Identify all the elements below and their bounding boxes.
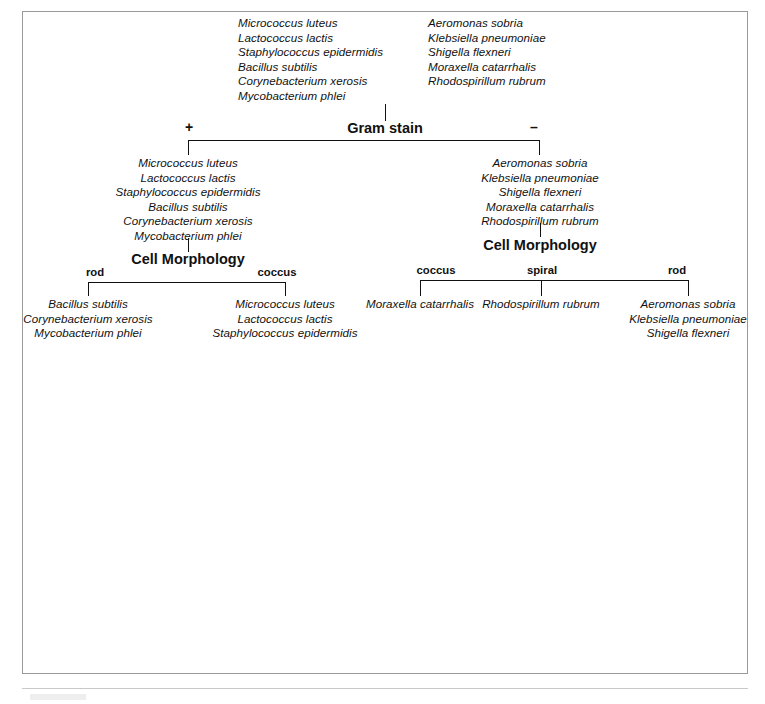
species-name: Shigella flexneri bbox=[428, 45, 546, 60]
connector-left-morphology-bar bbox=[88, 282, 286, 283]
species-name: Aeromonas sobria bbox=[629, 297, 747, 312]
species-name: Aeromonas sobria bbox=[481, 156, 599, 171]
branch-label-gram-negative-rod: rod bbox=[668, 264, 686, 276]
species-name: Moraxella catarrhalis bbox=[428, 60, 546, 75]
branch-label-gram-positive: + bbox=[185, 119, 193, 135]
connector-left-morphology-coccus-drop bbox=[285, 282, 286, 296]
node-cell-morphology-gram-negative: Cell Morphology bbox=[483, 237, 597, 253]
connector-gram-stain-bar bbox=[188, 140, 540, 141]
caption-divider bbox=[22, 688, 748, 689]
species-name: Staphylococcus epidermidis bbox=[238, 45, 383, 60]
branch-label-gram-negative-coccus: coccus bbox=[417, 264, 456, 276]
connector-gram-negative-to-morphology bbox=[540, 223, 541, 237]
species-name: Mycobacterium phlei bbox=[238, 89, 383, 104]
species-name: Bacillus subtilis bbox=[23, 297, 152, 312]
species-name: Staphylococcus epidermidis bbox=[115, 185, 260, 200]
species-name: Lactococcus lactis bbox=[212, 312, 357, 327]
connector-right-morphology-bar bbox=[420, 280, 689, 281]
terminal-group-gram-negative-coccus: Moraxella catarrhalis bbox=[366, 297, 474, 312]
species-name: Bacillus subtilis bbox=[238, 60, 383, 75]
caption-partial-text bbox=[30, 694, 86, 700]
connector-gram-positive-drop bbox=[188, 140, 189, 155]
terminal-group-gram-negative-spiral: Rhodospirillum rubrum bbox=[482, 297, 600, 312]
species-name: Micrococcus luteus bbox=[212, 297, 357, 312]
gram-negative-species-list: Aeromonas sobria Klebsiella pneumoniae S… bbox=[481, 156, 599, 229]
terminal-group-gram-negative-rod: Aeromonas sobria Klebsiella pneumoniae S… bbox=[629, 297, 747, 341]
species-name: Corynebacterium xerosis bbox=[115, 214, 260, 229]
species-name: Micrococcus luteus bbox=[238, 16, 383, 31]
species-name: Shigella flexneri bbox=[481, 185, 599, 200]
species-name: Shigella flexneri bbox=[629, 326, 747, 341]
connector-gram-positive-to-morphology bbox=[188, 238, 189, 252]
connector-root-to-gram-stain bbox=[385, 104, 386, 121]
species-name: Corynebacterium xerosis bbox=[238, 74, 383, 89]
species-name: Klebsiella pneumoniae bbox=[629, 312, 747, 327]
root-species-column-left: Micrococcus luteus Lactococcus lactis St… bbox=[238, 16, 383, 104]
species-name: Corynebacterium xerosis bbox=[23, 312, 152, 327]
connector-right-morphology-coccus-drop bbox=[420, 280, 421, 296]
species-name: Moraxella catarrhalis bbox=[481, 200, 599, 215]
species-name: Aeromonas sobria bbox=[428, 16, 546, 31]
species-name: Lactococcus lactis bbox=[238, 31, 383, 46]
species-name: Moraxella catarrhalis bbox=[366, 297, 474, 312]
branch-label-gram-positive-rod: rod bbox=[86, 266, 104, 278]
branch-label-gram-negative-spiral: spiral bbox=[527, 264, 557, 276]
terminal-group-gram-positive-coccus: Micrococcus luteus Lactococcus lactis St… bbox=[212, 297, 357, 341]
node-gram-stain: Gram stain bbox=[347, 120, 423, 136]
species-name: Staphylococcus epidermidis bbox=[212, 326, 357, 341]
species-name: Bacillus subtilis bbox=[115, 200, 260, 215]
species-name: Lactococcus lactis bbox=[115, 171, 260, 186]
connector-right-morphology-rod-drop bbox=[688, 280, 689, 296]
gram-positive-species-list: Micrococcus luteus Lactococcus lactis St… bbox=[115, 156, 260, 244]
species-name: Klebsiella pneumoniae bbox=[481, 171, 599, 186]
node-cell-morphology-gram-positive: Cell Morphology bbox=[131, 251, 245, 267]
connector-right-morphology-spiral-drop bbox=[541, 280, 542, 296]
species-name: Rhodospirillum rubrum bbox=[428, 74, 546, 89]
species-name: Micrococcus luteus bbox=[115, 156, 260, 171]
branch-label-gram-positive-coccus: coccus bbox=[258, 266, 297, 278]
species-name: Mycobacterium phlei bbox=[23, 326, 152, 341]
species-name: Klebsiella pneumoniae bbox=[428, 31, 546, 46]
connector-gram-negative-drop bbox=[539, 140, 540, 155]
dichotomous-key-figure: Micrococcus luteus Lactococcus lactis St… bbox=[0, 0, 765, 704]
root-species-column-right: Aeromonas sobria Klebsiella pneumoniae S… bbox=[428, 16, 546, 89]
branch-label-gram-negative: – bbox=[530, 119, 538, 135]
connector-left-morphology-rod-drop bbox=[88, 282, 89, 296]
species-name: Rhodospirillum rubrum bbox=[482, 297, 600, 312]
terminal-group-gram-positive-rod: Bacillus subtilis Corynebacterium xerosi… bbox=[23, 297, 152, 341]
